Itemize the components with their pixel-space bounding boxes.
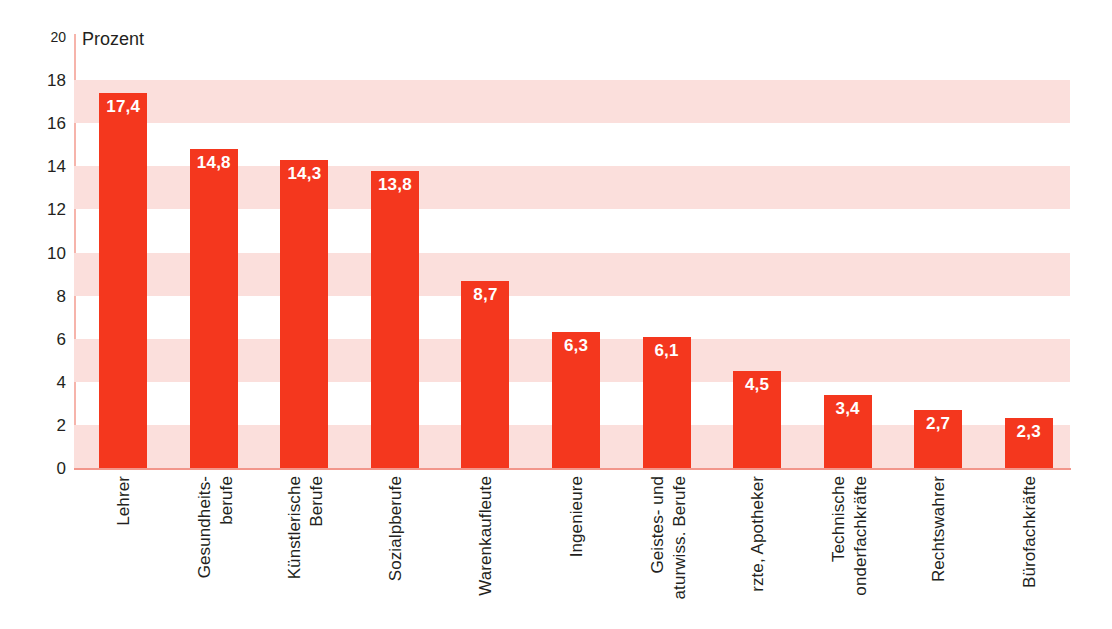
bar[interactable]: 13,8 <box>371 171 419 468</box>
y-tick-label: 18 <box>47 72 66 89</box>
x-category-label-line: Gesundheits- <box>195 476 215 578</box>
y-tick-label: 8 <box>57 288 66 305</box>
bar[interactable]: 14,3 <box>280 160 328 468</box>
y-tick-label: 14 <box>47 158 66 175</box>
y-tick-label: 16 <box>47 115 66 132</box>
bar-value-label: 6,1 <box>643 342 691 359</box>
bar-value-label: 4,5 <box>733 376 781 393</box>
x-category-label: rzte, Apotheker <box>748 476 770 629</box>
bar[interactable]: 17,4 <box>99 93 147 468</box>
plot-area: 17,414,814,313,88,76,36,14,53,42,72,3 <box>74 37 1070 468</box>
y-tick-label: 6 <box>57 331 66 348</box>
grid-band <box>74 80 1070 123</box>
bar[interactable]: 2,3 <box>1005 418 1053 468</box>
x-category-label: Technischeonderfachkräfte <box>829 476 873 629</box>
y-axis-tick-labels: 20181614121086420 <box>0 0 66 629</box>
x-category-label: Bürofachkräfte <box>1020 476 1042 629</box>
bar-value-label: 8,7 <box>461 286 509 303</box>
x-category-label: Rechtswahrer <box>929 476 951 629</box>
bar-value-label: 3,4 <box>824 400 872 417</box>
bar-value-label: 14,3 <box>280 165 328 182</box>
x-category-label: Geistes- undaturwiss. Berufe <box>648 476 692 629</box>
y-tick-label: 12 <box>47 201 66 218</box>
x-category-label: Lehrer <box>114 476 136 629</box>
bar[interactable]: 4,5 <box>733 371 781 468</box>
x-category-label-line: Technische <box>829 476 849 562</box>
x-category-label-line: rzte, Apotheker <box>748 476 768 592</box>
y-tick-label: 2 <box>57 417 66 434</box>
chart-canvas: Prozent 20181614121086420 17,414,814,313… <box>0 0 1112 629</box>
x-category-label-line: Warenkaufleute <box>476 476 496 596</box>
bar[interactable]: 14,8 <box>190 149 238 468</box>
bar[interactable]: 3,4 <box>824 395 872 468</box>
x-category-label-line: Ingenieure <box>567 476 587 557</box>
bar-value-label: 6,3 <box>552 337 600 354</box>
x-category-label-line: berufe <box>217 476 237 525</box>
bar[interactable]: 8,7 <box>461 281 509 468</box>
x-axis-line <box>74 468 1071 470</box>
x-category-label-line: aturwiss. Berufe <box>670 476 690 599</box>
x-category-label-line: Lehrer <box>114 476 134 526</box>
x-category-label: Ingenieure <box>567 476 589 629</box>
y-tick-label: 4 <box>57 374 66 391</box>
bar-value-label: 17,4 <box>99 98 147 115</box>
y-tick-label: 20 <box>50 30 66 44</box>
bar-value-label: 13,8 <box>371 176 419 193</box>
bar-value-label: 14,8 <box>190 154 238 171</box>
bar[interactable]: 2,7 <box>914 410 962 468</box>
x-category-label-line: Geistes- und <box>648 476 668 574</box>
bar[interactable]: 6,3 <box>552 332 600 468</box>
bar-value-label: 2,3 <box>1005 423 1053 440</box>
x-category-label: KünstlerischeBerufe <box>285 476 329 629</box>
x-category-label-line: Berufe <box>307 476 327 527</box>
bar-value-label: 2,7 <box>914 415 962 432</box>
x-category-label-line: Rechtswahrer <box>929 476 949 582</box>
x-category-label: Warenkaufleute <box>476 476 498 629</box>
y-tick-label: 0 <box>57 460 66 477</box>
x-category-label-line: Sozialpberufe <box>386 476 406 581</box>
x-category-label: Gesundheits-berufe <box>195 476 239 629</box>
bar[interactable]: 6,1 <box>643 337 691 468</box>
x-category-label-line: Bürofachkräfte <box>1020 476 1040 588</box>
x-category-label-line: onderfachkräfte <box>851 476 871 596</box>
y-tick-label: 10 <box>47 245 66 262</box>
x-category-label-line: Künstlerische <box>285 476 305 579</box>
x-category-label: Sozialpberufe <box>386 476 408 629</box>
